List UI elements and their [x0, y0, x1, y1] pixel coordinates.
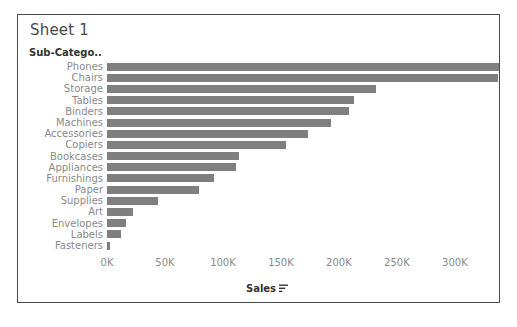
category-label[interactable]: Fasteners: [18, 240, 107, 251]
category-label[interactable]: Appliances: [18, 162, 107, 173]
bar[interactable]: [107, 119, 331, 127]
category-label[interactable]: Accessories: [18, 128, 107, 139]
bar-row: [107, 162, 499, 173]
bar[interactable]: [107, 197, 158, 205]
bar[interactable]: [107, 74, 498, 82]
category-label[interactable]: Phones: [18, 61, 107, 72]
bar-row: [107, 95, 499, 106]
bar[interactable]: [107, 163, 236, 171]
x-axis-ticks: 0K50K100K150K200K250K300K: [107, 257, 499, 277]
bar-row: [107, 184, 499, 195]
category-label[interactable]: Storage: [18, 83, 107, 94]
bar-row: [107, 117, 499, 128]
x-tick-label: 250K: [384, 257, 410, 268]
category-label[interactable]: Paper: [18, 184, 107, 195]
category-axis: PhonesChairsStorageTablesBindersMachines…: [18, 61, 107, 251]
bar-row: [107, 83, 499, 94]
bar-row: [107, 61, 499, 72]
bar[interactable]: [107, 174, 214, 182]
category-label[interactable]: Machines: [18, 117, 107, 128]
bar[interactable]: [107, 141, 286, 149]
sheet-title: Sheet 1: [30, 21, 89, 39]
bar[interactable]: [107, 208, 133, 216]
bar-row: [107, 229, 499, 240]
bar-row: [107, 195, 499, 206]
bar-row: [107, 72, 499, 83]
x-axis-title[interactable]: Sales: [107, 283, 427, 295]
category-label[interactable]: Chairs: [18, 72, 107, 83]
x-tick-label: 300K: [442, 257, 468, 268]
bar[interactable]: [107, 230, 121, 238]
bar[interactable]: [107, 186, 199, 194]
x-tick-label: 150K: [268, 257, 294, 268]
row-field-header[interactable]: Sub-Catego..: [29, 47, 102, 58]
bar-row: [107, 173, 499, 184]
x-tick-label: 0K: [101, 257, 114, 268]
bar-row: [107, 151, 499, 162]
bar-row: [107, 139, 499, 150]
category-label[interactable]: Tables: [18, 95, 107, 106]
bar[interactable]: [107, 96, 354, 104]
x-tick-label: 200K: [326, 257, 352, 268]
bar[interactable]: [107, 219, 126, 227]
bar[interactable]: [107, 242, 110, 250]
bar[interactable]: [107, 63, 499, 71]
worksheet-frame: Sheet 1 Sub-Catego.. PhonesChairsStorage…: [17, 14, 500, 303]
category-label[interactable]: Labels: [18, 229, 107, 240]
category-label[interactable]: Supplies: [18, 195, 107, 206]
category-label[interactable]: Envelopes: [18, 218, 107, 229]
bars-container: [107, 61, 499, 261]
bar-row: [107, 218, 499, 229]
category-label[interactable]: Bookcases: [18, 151, 107, 162]
x-axis-title-label: Sales: [246, 283, 276, 294]
bar[interactable]: [107, 107, 349, 115]
sort-descending-icon[interactable]: [279, 284, 288, 295]
x-tick-label: 100K: [210, 257, 236, 268]
chart-plot-area: PhonesChairsStorageTablesBindersMachines…: [18, 61, 499, 303]
bar[interactable]: [107, 85, 376, 93]
bar-row: [107, 128, 499, 139]
category-label[interactable]: Binders: [18, 106, 107, 117]
bar[interactable]: [107, 152, 239, 160]
x-tick-label: 50K: [155, 257, 174, 268]
category-label[interactable]: Copiers: [18, 139, 107, 150]
bar-row: [107, 106, 499, 117]
category-label[interactable]: Furnishings: [18, 173, 107, 184]
bar-row: [107, 206, 499, 217]
bar-row: [107, 240, 499, 251]
bar[interactable]: [107, 130, 308, 138]
category-label[interactable]: Art: [18, 206, 107, 217]
